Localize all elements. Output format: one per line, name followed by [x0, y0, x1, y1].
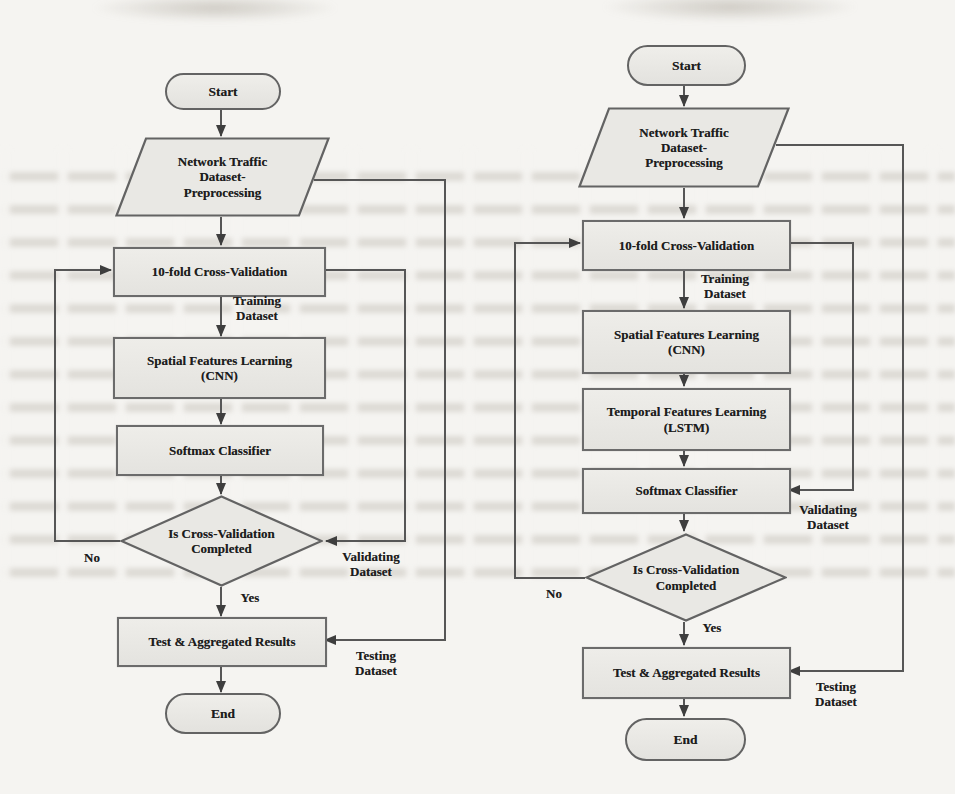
right-training-dataset-label: Training Dataset [692, 271, 758, 302]
right-cross-validation-label: 10-fold Cross-Validation [615, 238, 758, 253]
right-temporal-learning-node: Temporal Features Learning (LSTM) [582, 388, 791, 451]
right-spatial-learning-label: Spatial Features Learning (CNN) [610, 327, 763, 357]
left-no-label: No [78, 550, 106, 565]
right-start-node: Start [627, 45, 746, 86]
edge-right-validating-dataset [787, 243, 853, 490]
left-testing-dataset-label: Testing Dataset [344, 648, 408, 679]
left-preprocessing-label: Network Traffic Dataset- Preprocessing [174, 154, 271, 199]
left-softmax-label: Softmax Classifier [165, 443, 275, 458]
right-end-node: End [625, 718, 746, 761]
edge-left-validating-dataset [322, 270, 405, 541]
right-cross-validation-node: 10-fold Cross-Validation [582, 220, 791, 271]
right-end-label: End [669, 732, 701, 748]
edge-right-testing-dataset [776, 145, 903, 671]
right-softmax-node: Softmax Classifier [582, 468, 791, 514]
right-no-label: No [540, 586, 568, 601]
right-preprocessing-node: Network Traffic Dataset- Preprocessing [578, 107, 790, 188]
left-end-node: End [165, 693, 281, 734]
left-spatial-learning-node: Spatial Features Learning (CNN) [113, 337, 326, 399]
right-yes-label: Yes [695, 620, 729, 635]
edge-right-decision-no-loop [515, 243, 585, 578]
right-preprocessing-label: Network Traffic Dataset- Preprocessing [635, 125, 732, 170]
right-softmax-label: Softmax Classifier [631, 483, 741, 498]
left-results-label: Test & Aggregated Results [145, 634, 300, 649]
right-temporal-learning-label: Temporal Features Learning (LSTM) [603, 404, 771, 434]
left-spatial-learning-label: Spatial Features Learning (CNN) [143, 353, 296, 383]
left-results-node: Test & Aggregated Results [117, 617, 327, 667]
left-validating-dataset-label: Validating Dataset [334, 549, 408, 580]
right-results-label: Test & Aggregated Results [609, 665, 764, 680]
left-start-label: Start [204, 84, 241, 100]
left-decision-label: Is Cross-Validation Completed [164, 526, 279, 556]
left-cross-validation-label: 10-fold Cross-Validation [148, 264, 291, 279]
left-decision-node: Is Cross-Validation Completed [120, 495, 323, 587]
right-results-node: Test & Aggregated Results [582, 647, 791, 699]
left-start-node: Start [165, 73, 281, 110]
right-decision-node: Is Cross-Validation Completed [585, 533, 787, 622]
edge-left-decision-no-loop [55, 270, 120, 541]
left-cross-validation-node: 10-fold Cross-Validation [113, 247, 326, 297]
scanned-page: Start Network Traffic Dataset- Preproces… [0, 0, 955, 794]
right-decision-label: Is Cross-Validation Completed [629, 562, 744, 592]
left-training-dataset-label: Training Dataset [225, 293, 289, 324]
left-preprocessing-node: Network Traffic Dataset- Preprocessing [115, 137, 330, 217]
right-validating-dataset-label: Validating Dataset [791, 502, 865, 533]
left-end-label: End [207, 706, 239, 722]
right-testing-dataset-label: Testing Dataset [805, 679, 867, 710]
right-spatial-learning-node: Spatial Features Learning (CNN) [582, 310, 791, 374]
right-start-label: Start [668, 58, 705, 74]
left-softmax-node: Softmax Classifier [116, 425, 324, 476]
left-yes-label: Yes [233, 590, 267, 605]
